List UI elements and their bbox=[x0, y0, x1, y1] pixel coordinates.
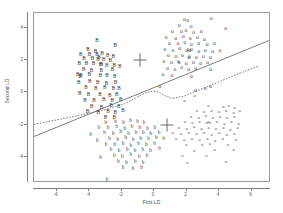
y-tick-label: 4 bbox=[14, 24, 23, 29]
data-point: o bbox=[181, 154, 183, 158]
data-point: o bbox=[170, 60, 173, 66]
data-point: B bbox=[83, 98, 86, 103]
data-point: b bbox=[119, 130, 122, 135]
data-point: o bbox=[225, 109, 227, 113]
data-point: B bbox=[84, 86, 87, 91]
data-point: o bbox=[227, 143, 229, 147]
centroid-right bbox=[161, 118, 174, 131]
data-point: b bbox=[135, 130, 138, 135]
data-point: o bbox=[202, 54, 205, 60]
data-point: B bbox=[77, 80, 80, 85]
data-point: o bbox=[162, 59, 165, 65]
data-point: o bbox=[235, 137, 237, 141]
data-point: b bbox=[122, 142, 125, 147]
dashed-boundary bbox=[34, 66, 258, 124]
x-axis-line bbox=[33, 188, 270, 189]
data-point: o bbox=[205, 154, 207, 158]
data-point: o bbox=[173, 67, 176, 73]
data-point: o bbox=[225, 160, 227, 164]
x-tick-label: 4 bbox=[217, 192, 220, 197]
x-tick-label: -4 bbox=[86, 192, 90, 197]
data-point: B bbox=[85, 61, 88, 66]
data-point: o bbox=[192, 31, 195, 37]
y-tick bbox=[24, 91, 27, 92]
data-point: o bbox=[166, 66, 169, 72]
data-point: b bbox=[110, 148, 113, 153]
data-point: o bbox=[195, 55, 198, 61]
data-point: o bbox=[238, 109, 240, 113]
plot-frame: BBBBBBBBBBBBBBBBBBBBBBBBBBBBBBBBBBBBBBBB… bbox=[33, 12, 270, 182]
lda-scatter-plot: BBBBBBBBBBBBBBBBBBBBBBBBBBBBBBBBBBBBBBBB… bbox=[0, 0, 283, 213]
y-tick-label: 2 bbox=[14, 56, 23, 61]
data-point: B bbox=[97, 110, 100, 115]
data-point: B bbox=[78, 92, 81, 97]
x-tick bbox=[88, 188, 89, 191]
data-point: b bbox=[131, 125, 134, 130]
data-point: B bbox=[102, 97, 105, 102]
data-point: o bbox=[224, 26, 227, 32]
data-point: o bbox=[209, 84, 212, 90]
data-point: o bbox=[219, 48, 222, 54]
data-point: B bbox=[95, 39, 98, 44]
data-point: b bbox=[146, 153, 149, 158]
data-point: B bbox=[90, 104, 93, 109]
data-point: o bbox=[167, 53, 170, 59]
x-tick bbox=[153, 188, 154, 191]
data-point: o bbox=[208, 125, 210, 129]
data-point: b bbox=[118, 148, 121, 153]
data-point: B bbox=[103, 86, 106, 91]
data-point: o bbox=[233, 115, 235, 119]
data-point: o bbox=[218, 131, 220, 135]
data-point: b bbox=[149, 148, 152, 153]
data-point: B bbox=[109, 104, 112, 109]
data-point: o bbox=[172, 131, 174, 135]
y-tick bbox=[24, 124, 27, 125]
data-point: o bbox=[214, 138, 216, 142]
data-point: B bbox=[79, 74, 82, 79]
data-point: o bbox=[190, 47, 193, 53]
data-point: o bbox=[216, 120, 218, 124]
data-point: o bbox=[222, 105, 224, 109]
data-point: b bbox=[103, 131, 106, 136]
data-point: b bbox=[143, 121, 146, 126]
x-tick-label: -2 bbox=[119, 192, 123, 197]
data-point: o bbox=[226, 116, 228, 120]
y-tick bbox=[24, 27, 27, 28]
data-point: o bbox=[203, 131, 205, 135]
data-point: o bbox=[198, 120, 200, 124]
data-point: o bbox=[171, 29, 174, 35]
x-tick-label: 0 bbox=[152, 192, 155, 197]
data-point: b bbox=[153, 141, 156, 146]
data-point: o bbox=[193, 148, 195, 152]
data-point: b bbox=[163, 136, 166, 141]
data-point: b bbox=[117, 160, 120, 165]
data-point: o bbox=[180, 66, 183, 72]
data-point: o bbox=[209, 142, 211, 146]
data-point: o bbox=[184, 99, 186, 103]
data-point: o bbox=[213, 148, 215, 152]
data-point: B bbox=[77, 62, 80, 67]
x-tick bbox=[186, 188, 187, 191]
data-layer: BBBBBBBBBBBBBBBBBBBBBBBBBBBBBBBBBBBBBBBB… bbox=[34, 13, 269, 181]
data-point: B bbox=[86, 110, 89, 115]
data-point: o bbox=[161, 72, 164, 78]
data-point: B bbox=[82, 67, 85, 72]
data-point: o bbox=[229, 127, 231, 131]
data-point: o bbox=[204, 86, 207, 92]
data-point: B bbox=[106, 109, 109, 114]
data-point: B bbox=[100, 105, 103, 110]
data-point: b bbox=[112, 131, 115, 136]
data-point: o bbox=[210, 133, 212, 137]
y-tick bbox=[24, 156, 27, 157]
data-point: o bbox=[212, 116, 214, 120]
data-point: b bbox=[132, 166, 135, 171]
data-point: o bbox=[190, 114, 192, 118]
boundary-layer bbox=[34, 13, 269, 181]
data-point: B bbox=[118, 64, 121, 69]
data-point: o bbox=[196, 109, 198, 113]
data-point: b bbox=[115, 124, 118, 129]
data-point: b bbox=[90, 132, 93, 137]
data-point: o bbox=[196, 132, 198, 136]
x-tick-label: -6 bbox=[54, 192, 58, 197]
data-point: o bbox=[233, 148, 235, 152]
